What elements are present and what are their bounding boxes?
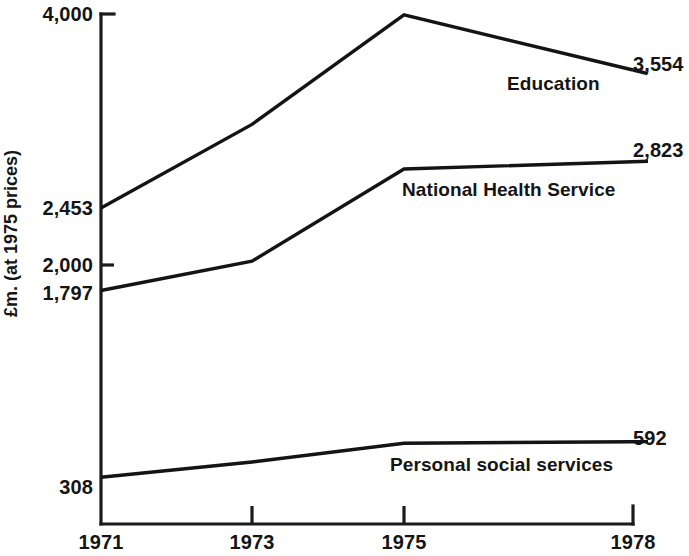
line-chart: £m. (at 1975 prices) 4,000 2,453 2,000 1… (0, 0, 689, 556)
nhs-end-value: 2,823 (633, 140, 684, 160)
x-tick-label-1973: 1973 (230, 532, 275, 552)
education-series-label: Education (507, 74, 600, 93)
nhs-series-label: National Health Service (402, 180, 616, 199)
y-tick-label-1797: 1,797 (13, 283, 93, 303)
pss-end-value: 592 (633, 428, 667, 448)
pss-series-label: Personal social services (390, 455, 613, 474)
series-tail-nhs (633, 161, 648, 162)
x-tick-label-1971: 1971 (79, 532, 124, 552)
x-tick-label-1975: 1975 (382, 532, 427, 552)
y-tick-label-2453: 2,453 (13, 198, 93, 218)
education-end-value: 3,554 (633, 54, 684, 74)
y-tick-label-308: 308 (13, 477, 93, 497)
y-tick-label-4000: 4,000 (13, 4, 93, 24)
x-tick-label-1978: 1978 (611, 532, 656, 552)
y-tick-label-2000: 2,000 (13, 255, 93, 275)
y-axis-title: £m. (at 1975 prices) (2, 150, 20, 400)
